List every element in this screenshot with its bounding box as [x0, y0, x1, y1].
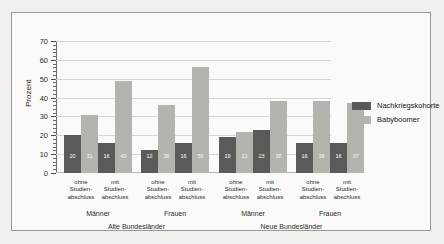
y-tick-minor [53, 120, 56, 121]
x-category-label-line: abschluss [324, 194, 370, 201]
y-tick-minor [53, 169, 56, 170]
x-category-label-line: mit [92, 179, 138, 186]
y-tick-minor [53, 45, 56, 46]
legend-item: Nachkriegskohorte [352, 101, 440, 110]
y-tick-major [51, 41, 56, 42]
y-tick-minor [53, 128, 56, 129]
y-tick-label: 20 [40, 131, 48, 140]
y-tick-label: 10 [40, 150, 48, 159]
bar-value-label: 19 [224, 153, 230, 159]
x-region-label: Alte Bundesländer [62, 223, 212, 230]
y-tick-minor [53, 94, 56, 95]
bar-value-label: 38 [318, 153, 324, 159]
x-group-label: Frauen [130, 210, 220, 217]
y-tick-major [51, 173, 56, 174]
y-tick-minor [53, 132, 56, 133]
bar-value-label: 36 [163, 153, 169, 159]
bar: 16 [98, 143, 115, 173]
bar-value-label: 22 [241, 153, 247, 159]
bar-value-label: 16 [301, 153, 307, 159]
legend-swatch [352, 102, 371, 110]
x-category-label-line: Studien- [324, 186, 370, 193]
y-tick-major [51, 60, 56, 61]
y-tick-major [51, 98, 56, 99]
x-category-label-line: mit [324, 179, 370, 186]
y-tick-minor [53, 49, 56, 50]
gridline [56, 41, 331, 42]
y-tick-minor [53, 90, 56, 91]
legend-item: Babyboomer [352, 115, 440, 124]
bar: 38 [270, 101, 287, 173]
bar: 22 [236, 132, 253, 173]
x-category-label-line: Studien- [92, 186, 138, 193]
bar-value-label: 16 [335, 153, 341, 159]
bar: 16 [296, 143, 313, 173]
y-axis-title: Prozent [24, 79, 33, 107]
y-tick-minor [53, 86, 56, 87]
bar-value-label: 20 [69, 153, 75, 159]
y-tick-label: 30 [40, 112, 48, 121]
y-tick-minor [53, 150, 56, 151]
y-tick-label: 70 [40, 37, 48, 46]
bar-value-label: 16 [103, 153, 109, 159]
x-category-label: mitStudien-abschluss [247, 179, 293, 201]
x-category-label-line: mit [169, 179, 215, 186]
x-category-label-line: abschluss [169, 194, 215, 201]
bar-value-label: 37 [352, 153, 358, 159]
bar: 49 [115, 81, 132, 173]
legend-label: Nachkriegskohorte [377, 101, 440, 110]
legend-label: Babyboomer [377, 115, 420, 124]
y-tick-label: 0 [44, 169, 48, 178]
y-tick-minor [53, 56, 56, 57]
bar: 12 [141, 150, 158, 173]
y-tick-major [51, 79, 56, 80]
y-tick-minor [53, 52, 56, 53]
y-tick-minor [53, 113, 56, 114]
chart-frame: Prozent 010203040506070 2031164912361656… [11, 12, 431, 231]
y-tick-minor [53, 105, 56, 106]
legend-swatch [352, 116, 371, 124]
x-category-label-line: abschluss [247, 194, 293, 201]
y-tick-label: 50 [40, 74, 48, 83]
x-category-label: mitStudien-abschluss [324, 179, 370, 201]
bar: 16 [330, 143, 347, 173]
y-tick-minor [53, 82, 56, 83]
bar: 23 [253, 130, 270, 173]
y-tick-major [51, 135, 56, 136]
bar: 38 [313, 101, 330, 173]
y-tick-minor [53, 147, 56, 148]
legend: NachkriegskohorteBabyboomer [352, 101, 440, 129]
bar: 16 [175, 143, 192, 173]
bar: 20 [64, 135, 81, 173]
y-tick-minor [53, 124, 56, 125]
bar-value-label: 56 [197, 153, 203, 159]
y-tick-minor [53, 71, 56, 72]
x-group-label: Frauen [285, 210, 375, 217]
bar-value-label: 49 [120, 153, 126, 159]
chart-screenshot: Prozent 010203040506070 2031164912361656… [0, 0, 444, 244]
y-tick-label: 40 [40, 93, 48, 102]
y-tick-minor [53, 109, 56, 110]
bar: 31 [81, 115, 98, 173]
y-tick-major [51, 116, 56, 117]
bar: 19 [219, 137, 236, 173]
bar-value-label: 12 [146, 153, 152, 159]
x-region-label: Neue Bundesländer [217, 223, 367, 230]
x-category-label-line: Studien- [247, 186, 293, 193]
y-tick-major [51, 154, 56, 155]
y-tick-minor [53, 165, 56, 166]
y-tick-minor [53, 64, 56, 65]
bar: 36 [158, 105, 175, 173]
bar: 56 [192, 67, 209, 173]
y-tick-minor [53, 75, 56, 76]
plot-area: 010203040506070 203116491236165619222338… [56, 41, 331, 173]
x-category-label-line: abschluss [92, 194, 138, 201]
y-tick-minor [53, 101, 56, 102]
gridline [56, 60, 331, 61]
y-tick-minor [53, 158, 56, 159]
x-category-label: mitStudien-abschluss [169, 179, 215, 201]
bar-value-label: 16 [180, 153, 186, 159]
x-category-label-line: Studien- [169, 186, 215, 193]
bar-value-label: 31 [86, 153, 92, 159]
y-tick-minor [53, 143, 56, 144]
